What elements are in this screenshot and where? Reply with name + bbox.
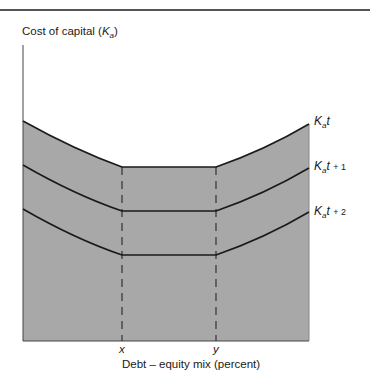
- curve-label-kat-plus-1: Kat + 1: [314, 159, 346, 175]
- cost-of-capital-plot: [0, 0, 370, 389]
- x-tick-x: x: [119, 343, 125, 355]
- curve-label-kat: Kat: [314, 114, 330, 130]
- curve-label-kat-plus-2: Kat + 2: [314, 204, 346, 220]
- curve-label-t: t: [326, 159, 329, 173]
- curve-label-t: t: [326, 114, 329, 128]
- x-axis-label: Debt – equity mix (percent): [122, 358, 260, 370]
- curve-label-k: K: [314, 114, 322, 128]
- curve-label-suffix: + 2: [333, 207, 346, 217]
- x-tick-y: y: [213, 343, 219, 355]
- curve-label-t: t: [326, 204, 329, 218]
- curve-label-suffix: + 1: [333, 162, 346, 172]
- curve-label-k: K: [314, 159, 322, 173]
- curve-label-k: K: [314, 204, 322, 218]
